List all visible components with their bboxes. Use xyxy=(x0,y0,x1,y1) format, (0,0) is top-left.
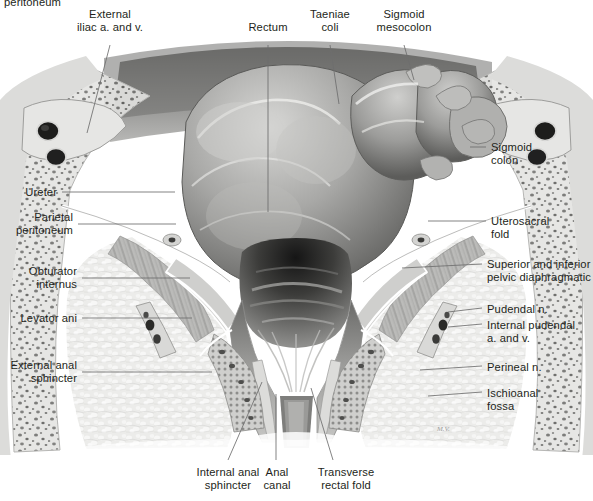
label-external-anal-sphincter: External anal sphincter xyxy=(0,359,77,385)
label-sigmoid-mesocolon: Sigmoid mesocolon xyxy=(356,8,452,34)
label-pudendal-n: Pudendal n. xyxy=(487,303,587,316)
label-ischioanal-fossa: Ischioanal fossa xyxy=(487,387,587,413)
label-sigmoid-colon: Sigmoid colon xyxy=(491,141,589,167)
artist-signature: M.V. xyxy=(437,425,450,433)
label-pelvic-diaphragm-fascia: Superior and inferior pelvic diaphragmat… xyxy=(487,258,593,284)
label-parietal-peritoneum: Parietal peritoneum xyxy=(0,211,73,237)
label-external-iliac: External iliac a. and v. xyxy=(62,8,158,34)
label-anal-canal: Anal canal xyxy=(254,466,300,492)
label-internal-pudendal: Internal pudendal a. and v. xyxy=(487,319,587,345)
label-levator-ani: Levator ani xyxy=(0,312,77,325)
label-ureter: Ureter xyxy=(0,186,57,199)
label-uterosacral-fold: Uterosacral fold xyxy=(491,215,589,241)
label-transverse-rectal-fold: Transverse rectal fold xyxy=(303,466,389,492)
illustration-artwork xyxy=(0,0,593,501)
anatomical-figure: peritoneum External iliac a. and v. Rect… xyxy=(0,0,593,501)
label-obturator-internus: Obturator internus xyxy=(0,265,77,291)
clipped-title-fragment: peritoneum xyxy=(4,0,61,8)
label-perineal-n: Perineal n. xyxy=(487,361,587,374)
